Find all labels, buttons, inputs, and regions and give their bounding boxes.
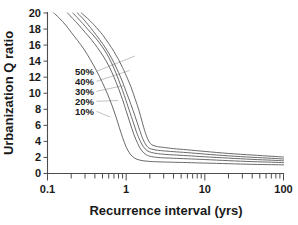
y-tick-label: 2 [35,151,41,163]
x-axis-title: Recurrence interval (yrs) [89,203,242,218]
y-axis-title: Urbanization Q ratio [1,31,16,155]
leader-line-30pct [97,86,125,92]
y-tick-label: 10 [29,87,41,99]
y-tick-label: 12 [29,71,41,83]
urbanization-q-ratio-chart: 02468101214161820 0.1110100 50%40%30%20%… [0,0,298,225]
y-tick-label: 20 [29,7,41,19]
y-tick-label: 16 [29,39,41,51]
y-tick-label: 0 [35,167,41,179]
annotation-leader-lines [97,56,136,117]
y-axis-tick-labels: 02468101214161820 [29,7,42,180]
y-tick-label: 8 [35,103,41,115]
leader-line-50pct [97,56,136,71]
y-tick-label: 18 [29,23,41,35]
y-axis-ticks [44,13,48,174]
x-axis-tick-labels: 0.1110100 [40,183,293,195]
y-tick-label: 6 [35,119,41,131]
y-tick-label: 4 [35,135,42,147]
x-tick-label: 1 [123,183,129,195]
series-label-10pct: 10% [75,106,95,117]
y-tick-label: 14 [29,55,42,67]
curve-40pct [77,13,283,159]
x-axis-minor-ticks [71,174,280,179]
leader-line-10pct [97,111,111,117]
x-tick-label: 10 [199,183,211,195]
curve-20pct [68,13,284,163]
curve-50pct [81,13,283,157]
x-axis-major-ticks [48,174,284,181]
x-tick-label: 100 [274,183,292,195]
series-annotation-labels: 50%40%30%20%10% [75,66,95,117]
chart-figure: 02468101214161820 0.1110100 50%40%30%20%… [0,0,298,225]
leader-line-20pct [97,101,119,102]
x-tick-label: 0.1 [40,183,55,195]
